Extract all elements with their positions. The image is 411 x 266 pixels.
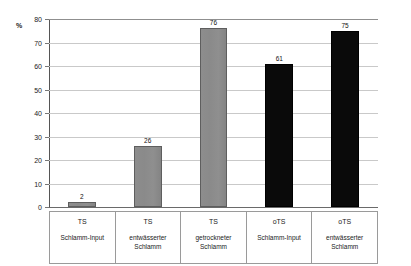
bar-value-label: 2 <box>80 193 84 200</box>
category-sample-label: entwässerter Schlamm <box>116 233 181 251</box>
category-sample-label: Schlamm-Input <box>58 233 106 242</box>
bar <box>134 146 162 207</box>
bar-slot: 61 <box>246 19 312 207</box>
bar-value-label: 76 <box>210 19 217 26</box>
category-cell: TSSchlamm-Input <box>50 212 116 263</box>
y-tick-mark-10 <box>45 184 49 185</box>
category-parameter-label: TS <box>78 217 87 227</box>
y-tick-label-40: 40 <box>16 110 42 117</box>
y-tick-label-20: 20 <box>16 157 42 164</box>
bars-container: 226766175 <box>49 19 378 207</box>
bar-slot: 76 <box>181 19 247 207</box>
y-tick-mark-70 <box>45 43 49 44</box>
y-tick-mark-80 <box>45 19 49 20</box>
bar-slot: 2 <box>49 19 115 207</box>
y-tick-label-60: 60 <box>16 63 42 70</box>
category-cell: oTSSchlamm-Input <box>247 212 313 263</box>
bar <box>265 64 293 207</box>
y-tick-mark-30 <box>45 137 49 138</box>
category-parameter-label: TS <box>143 217 152 227</box>
category-cell: TSentwässerter Schlamm <box>116 212 182 263</box>
gridline-0 <box>49 207 378 208</box>
y-tick-mark-60 <box>45 66 49 67</box>
y-tick-label-70: 70 <box>16 39 42 46</box>
bar-chart: % 226766175 TSSchlamm-InputTSentwässerte… <box>0 0 411 266</box>
y-tick-label-30: 30 <box>16 133 42 140</box>
category-parameter-label: oTS <box>273 217 286 227</box>
category-sample-label: Schlamm-Input <box>255 233 303 242</box>
category-cell: oTSentwässerter Schlamm <box>312 212 377 263</box>
y-tick-label-80: 80 <box>16 16 42 23</box>
bar <box>331 31 359 207</box>
bar-value-label: 26 <box>144 137 151 144</box>
bar-slot: 75 <box>312 19 378 207</box>
y-tick-mark-50 <box>45 90 49 91</box>
category-sample-label: getrockneter Schlamm <box>181 233 246 251</box>
bar-value-label: 61 <box>276 55 283 62</box>
bar-slot: 26 <box>115 19 181 207</box>
bar <box>68 202 96 207</box>
y-tick-label-50: 50 <box>16 86 42 93</box>
category-parameter-label: TS <box>209 217 218 227</box>
category-cell: TSgetrockneter Schlamm <box>181 212 247 263</box>
y-tick-label-0: 0 <box>16 204 42 211</box>
y-tick-label-10: 10 <box>16 180 42 187</box>
category-sample-label: entwässerter Schlamm <box>312 233 377 251</box>
bar-value-label: 75 <box>341 22 348 29</box>
y-tick-mark-0 <box>45 207 49 208</box>
category-table: TSSchlamm-InputTSentwässerter SchlammTSg… <box>49 211 378 264</box>
bar <box>200 28 228 207</box>
y-axis-unit-label: % <box>16 22 22 29</box>
category-parameter-label: oTS <box>338 217 351 227</box>
y-tick-mark-40 <box>45 113 49 114</box>
y-tick-mark-20 <box>45 160 49 161</box>
